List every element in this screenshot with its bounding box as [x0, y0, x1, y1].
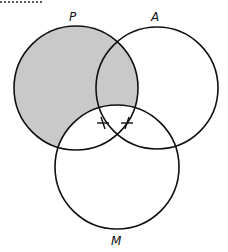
venn-diagram: P A M: [0, 0, 228, 252]
label-a: A: [150, 10, 159, 24]
label-m: M: [111, 234, 122, 248]
label-p: P: [69, 10, 77, 24]
